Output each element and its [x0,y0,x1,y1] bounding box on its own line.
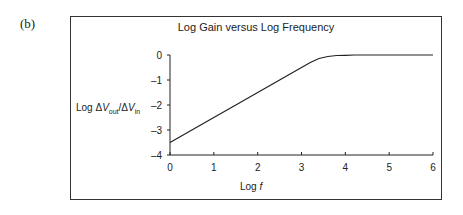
x-tick-label: 2 [255,162,261,173]
y-tick-label: –1 [151,75,163,86]
x-tick-label: 6 [430,162,436,173]
axes [170,55,433,155]
x-tick-label: 0 [167,162,173,173]
plot-area: 0–1–2–3–40123456 [0,0,463,215]
x-tick-label: 1 [211,162,217,173]
x-tick-label: 3 [299,162,305,173]
y-tick-label: –4 [151,150,163,161]
y-tick-label: –2 [151,100,163,111]
ticks: 0–1–2–3–40123456 [151,50,436,174]
y-tick-label: –3 [151,125,163,136]
gain-curve [170,55,433,143]
y-tick-label: 0 [156,50,162,61]
x-tick-label: 4 [343,162,349,173]
x-tick-label: 5 [386,162,392,173]
